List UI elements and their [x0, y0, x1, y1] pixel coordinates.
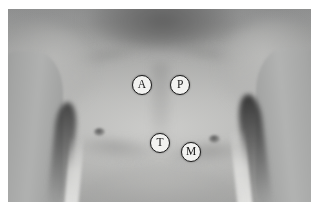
auscultation-marker-aortic[interactable]: A [132, 75, 152, 95]
auscultation-marker-pulmonic[interactable]: P [170, 75, 190, 95]
auscultation-marker-label-pulmonic: P [177, 79, 183, 91]
chest-photograph: APTM [8, 9, 311, 202]
figure-root: APTM [0, 0, 320, 211]
left-nipple [94, 128, 105, 136]
auscultation-marker-tricuspid[interactable]: T [150, 133, 170, 153]
auscultation-marker-mitral[interactable]: M [181, 142, 201, 162]
auscultation-marker-label-aortic: A [138, 79, 146, 91]
auscultation-marker-label-tricuspid: T [157, 137, 164, 149]
auscultation-marker-label-mitral: M [186, 146, 196, 158]
